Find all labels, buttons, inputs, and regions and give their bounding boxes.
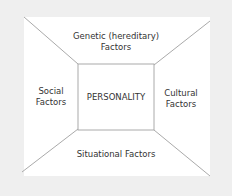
top-label-line2: Factors	[60, 42, 172, 53]
center-label: PERSONALITY	[78, 92, 154, 103]
right-label-line1: Cultural	[156, 88, 206, 99]
left-label: Social Factors	[28, 86, 74, 108]
top-label: Genetic (hereditary) Factors	[60, 31, 172, 53]
top-label-line1: Genetic (hereditary)	[60, 31, 172, 42]
right-label: Cultural Factors	[156, 88, 206, 110]
right-label-line2: Factors	[156, 99, 206, 110]
left-label-line1: Social	[28, 86, 74, 97]
bottom-label: Situational Factors	[60, 149, 172, 160]
left-label-line2: Factors	[28, 97, 74, 108]
